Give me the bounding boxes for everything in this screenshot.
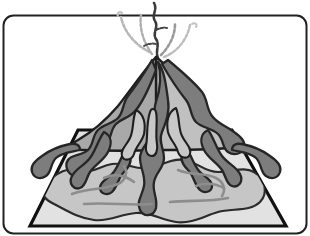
illustration-canvas: Volcano with lava flows on a square base: [0, 0, 310, 236]
ground-crack-lower-left: [84, 203, 152, 204]
volcano-illustration: [0, 0, 310, 236]
